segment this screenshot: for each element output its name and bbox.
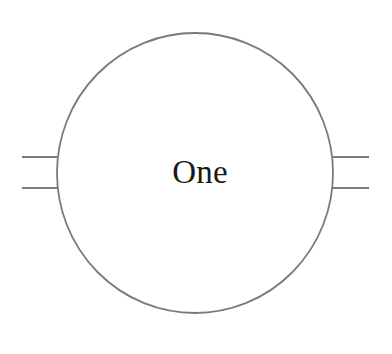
node-label-one: One [172, 154, 228, 190]
diagram-svg: One [0, 0, 392, 354]
diagram-canvas: One [0, 0, 392, 354]
